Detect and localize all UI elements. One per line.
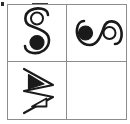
- puzzle-stage: [0, 0, 130, 124]
- s-curve-rotated-filled-circle-left-open-circle-right-figure: [70, 6, 124, 60]
- chevron-zigzag-filled-triangle-top-open-triangle-bottom-figure: [10, 64, 64, 118]
- s-curve-open-circle-top-filled-circle-bottom-figure: [10, 6, 64, 60]
- matrix-cell-row1-col2[interactable]: [67, 5, 126, 62]
- filled-circle-left: [78, 26, 92, 40]
- matrix-cell-row2-col1[interactable]: [8, 62, 67, 119]
- open-triangle-lower: [32, 98, 47, 106]
- open-circle-right: [103, 27, 115, 39]
- matrix-cell-row2-col2-answer[interactable]: [67, 62, 126, 119]
- matrix-cell-row1-col1[interactable]: [8, 5, 67, 62]
- analogy-matrix-grid: [7, 4, 127, 120]
- open-circle-upper: [31, 13, 43, 25]
- filled-circle-lower: [30, 36, 44, 50]
- corner-speck-artifact: [1, 2, 4, 6]
